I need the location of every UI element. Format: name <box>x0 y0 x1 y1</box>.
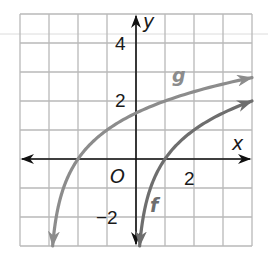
series-label-g: g <box>172 64 186 86</box>
graph: x y O 2 4 2 −2 g f <box>0 0 268 254</box>
y-tick-label-4: 4 <box>115 33 126 54</box>
y-axis-label: y <box>142 10 155 32</box>
origin-label: O <box>110 165 125 187</box>
x-tick-label-2: 2 <box>184 168 195 189</box>
series-label-f: f <box>150 194 161 216</box>
curve-f <box>140 101 252 246</box>
x-axis-label: x <box>231 132 244 154</box>
y-tick-label-neg2: −2 <box>96 207 118 228</box>
y-tick-label-2: 2 <box>115 90 126 111</box>
curve-g <box>53 78 252 246</box>
curves <box>53 78 252 246</box>
